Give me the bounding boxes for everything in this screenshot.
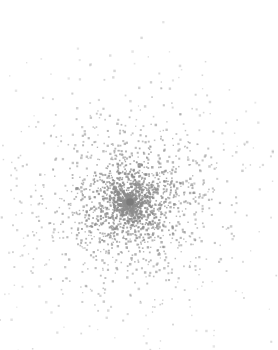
scatter-point-cloud-canvas [0,0,278,350]
scatter-plot-figure: scatter Radially-decaying point cloud (g… [0,0,278,350]
